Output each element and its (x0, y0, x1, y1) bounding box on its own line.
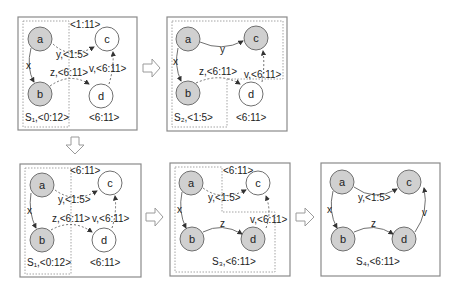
edge-x-label: x (26, 60, 31, 71)
edge-x-label: x (173, 56, 178, 67)
edge-y-label: y (220, 44, 225, 55)
arrow-right-icon (296, 208, 314, 226)
node-d-interval: <6:11> (90, 257, 121, 268)
edge-v-label: v,<6:11> (92, 213, 130, 224)
set-label: S₁,<0:12> (25, 112, 69, 123)
edge-z-label: z (220, 218, 225, 229)
node-c-label: c (104, 33, 110, 45)
node-c-interval: <1:11> (70, 19, 101, 30)
node-a-label: a (39, 179, 46, 191)
edge-y-label: y,<1:5> (358, 192, 391, 203)
node-c-label: c (406, 176, 412, 188)
edge-x-label: x (177, 204, 182, 215)
node-b-label: b (39, 234, 45, 246)
edge-v-label: v,<6:11> (244, 69, 282, 80)
node-d-interval: <6:11> (89, 112, 120, 123)
node-b-label: b (185, 87, 191, 99)
set-label: S₁,<0:12> (27, 257, 71, 268)
node-c-interval: <6:11> (223, 165, 254, 176)
set-label: S₂,<1:5> (174, 112, 213, 123)
panel-5: a b c d x y,<1:5> z v S₄,<6:11> (321, 163, 440, 276)
edge-z-label: z,<6:11> (52, 213, 90, 224)
node-c-label: c (253, 32, 259, 44)
edge-z-label: z,<6:11> (199, 66, 237, 77)
edge-z-label: z,<6:11> (50, 67, 88, 78)
node-b-label: b (340, 233, 346, 245)
node-b-label: b (37, 88, 43, 100)
node-d-interval: <6:11> (236, 112, 267, 123)
edge-y-label: y,<1:5> (208, 192, 241, 203)
set-label: S₃,<6:11> (212, 256, 256, 267)
node-d-label: d (248, 88, 254, 100)
panel-4: a b c d x y,<1:5> z v,<6:11> <6:11> S₃,<… (170, 163, 290, 276)
edge-x-label: x (27, 205, 32, 216)
node-c-interval: <6:11> (70, 165, 101, 176)
diagram-canvas: a b c d x y,<1:5> z,<6:11> v,<6:11> <1:1… (0, 0, 458, 289)
edge-v-label: v (422, 207, 427, 218)
edge-v-label: v,<6:11> (89, 63, 127, 74)
edge-x-label: x (327, 204, 332, 215)
panel-2: a b c d x y z,<6:11> v,<6:11> <6:11> S₂,… (167, 17, 287, 131)
edge-z-label: z (371, 218, 376, 229)
node-c-label: c (107, 177, 113, 189)
node-d-label: d (250, 233, 256, 245)
node-a-label: a (188, 177, 195, 189)
node-c-label: c (255, 177, 261, 189)
panel-3: a b c d x y,<1:5> z,<6:11> v,<6:11> <6:1… (20, 164, 141, 277)
edge-y-label: y,<1:5> (56, 49, 89, 60)
set-label: S₄,<6:11> (356, 256, 400, 267)
arrow-right-icon (146, 208, 163, 226)
node-d-label: d (401, 233, 407, 245)
node-d-label: d (101, 234, 107, 246)
panel-1: a b c d x y,<1:5> z,<6:11> v,<6:11> <1:1… (18, 17, 137, 130)
node-d-label: d (98, 90, 104, 102)
node-a-label: a (37, 33, 44, 45)
node-a-label: a (339, 176, 346, 188)
node-a-label: a (185, 33, 192, 45)
arrow-right-icon (143, 59, 160, 77)
edge-y-label: y,<1:5> (58, 194, 91, 205)
edge-v-label: v,<6:11> (250, 214, 288, 225)
arrow-down-icon (66, 137, 84, 154)
node-b-label: b (189, 233, 195, 245)
